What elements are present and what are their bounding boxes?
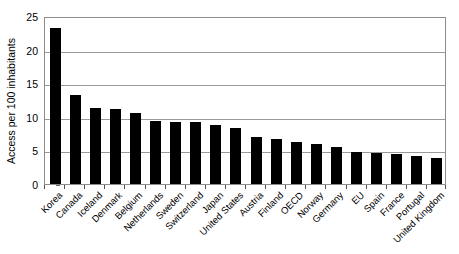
plot-area (44, 17, 446, 185)
y-tick-label: 15 (18, 79, 38, 90)
bars-series (45, 18, 445, 184)
bar-chart: Access per 100 inhabitants 0510152025 Ko… (0, 0, 459, 254)
y-tick-label: 10 (18, 113, 38, 124)
y-axis-title: Access per 100 inhabitants (4, 6, 18, 196)
y-axis-ticks: 0510152025 (18, 10, 38, 192)
y-tick-label: 20 (18, 46, 38, 57)
y-tick-label: 25 (18, 12, 38, 23)
x-axis-labels: KoreaCanadaIcelandDenmarkBelgiumNetherla… (0, 188, 459, 254)
y-tick-label: 5 (18, 146, 38, 157)
bar (50, 28, 61, 184)
